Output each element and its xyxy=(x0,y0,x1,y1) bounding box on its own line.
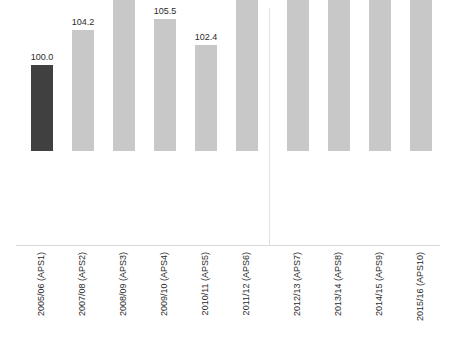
bar[interactable] xyxy=(236,0,258,151)
bar[interactable] xyxy=(195,45,217,151)
x-axis-tick-label: 2005/06 (APS1) xyxy=(36,252,46,316)
bar-value-label: 104.2 xyxy=(72,17,95,28)
x-axis-tick-label: 2014/15 (APS9) xyxy=(374,252,384,316)
x-axis-tick-label: 2009/10 (APS4) xyxy=(159,252,169,316)
bar[interactable] xyxy=(410,0,432,151)
x-axis-tick-label: 2011/12 (APS6) xyxy=(241,252,251,315)
bar[interactable] xyxy=(328,0,350,151)
bar[interactable] xyxy=(154,19,176,151)
bar-value-label: 100.0 xyxy=(31,52,54,63)
x-axis-line xyxy=(16,245,440,246)
x-axis-tick-label: 2013/14 (APS8) xyxy=(333,252,343,316)
bar[interactable] xyxy=(72,30,94,151)
bar[interactable] xyxy=(287,0,309,151)
bar[interactable] xyxy=(31,65,53,151)
x-axis-tick-label: 2007/08 (APS2) xyxy=(77,252,87,316)
x-axis-tick-label: 2008/09 (APS3) xyxy=(118,252,128,316)
bar[interactable] xyxy=(113,0,135,151)
bar-chart: 100.0 104.2 108.5 105.5 102.4 111.5 xyxy=(0,0,454,340)
vertical-separator-line xyxy=(269,8,270,246)
bar-value-label: 105.5 xyxy=(154,6,177,17)
bar-value-label: 102.4 xyxy=(195,32,218,43)
x-axis-tick-label: 2015/16 (APS10) xyxy=(415,252,425,321)
plot-area: 100.0 104.2 108.5 105.5 102.4 111.5 xyxy=(0,0,454,246)
x-axis-tick-label: 2010/11 (APS5) xyxy=(200,252,210,315)
bar[interactable] xyxy=(369,0,391,151)
x-axis-tick-label: 2012/13 (APS7) xyxy=(292,252,302,316)
